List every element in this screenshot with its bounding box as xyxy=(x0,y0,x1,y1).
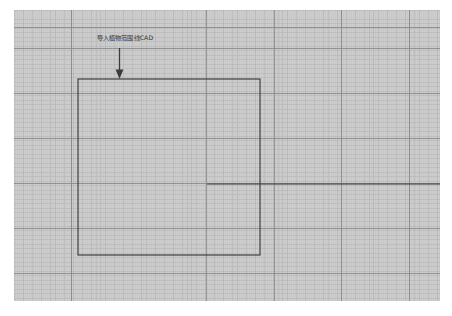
cad-canvas[interactable]: 导入植物范围线CAD xyxy=(14,10,440,301)
geometry-layer xyxy=(14,10,440,301)
cad-diagram-page: 导入植物范围线CAD xyxy=(0,0,452,316)
arrow-down-icon xyxy=(110,48,130,80)
annotation-label: 导入植物范围线CAD xyxy=(97,35,153,41)
plant-range-rectangle[interactable] xyxy=(78,79,260,255)
